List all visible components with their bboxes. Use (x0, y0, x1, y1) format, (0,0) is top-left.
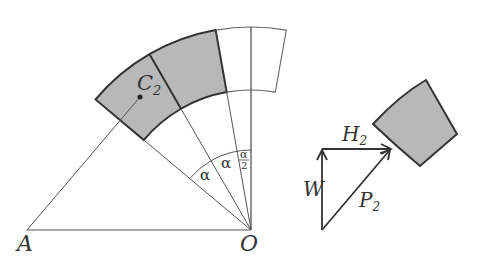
svg-text:2: 2 (241, 160, 247, 171)
ray-50deg (144, 140, 251, 230)
line-A-C2 (27, 97, 140, 230)
label-alpha-1: α (200, 166, 210, 184)
free-body-voussoir (373, 80, 457, 166)
label-alpha-2: α (221, 154, 231, 172)
label-half-alpha: α 2 (239, 148, 249, 171)
vector-P2 (322, 151, 389, 230)
label-O: O (240, 231, 258, 256)
centroid-point (138, 95, 143, 100)
diagram-canvas: A O C2 α α α 2 W H2 P2 (0, 0, 478, 271)
label-A: A (15, 231, 33, 256)
label-H2: H2 (341, 122, 367, 148)
label-W: W (303, 177, 325, 201)
arch-diagram: A O C2 α α α 2 W H2 P2 (0, 0, 478, 271)
label-P2: P2 (358, 188, 380, 214)
